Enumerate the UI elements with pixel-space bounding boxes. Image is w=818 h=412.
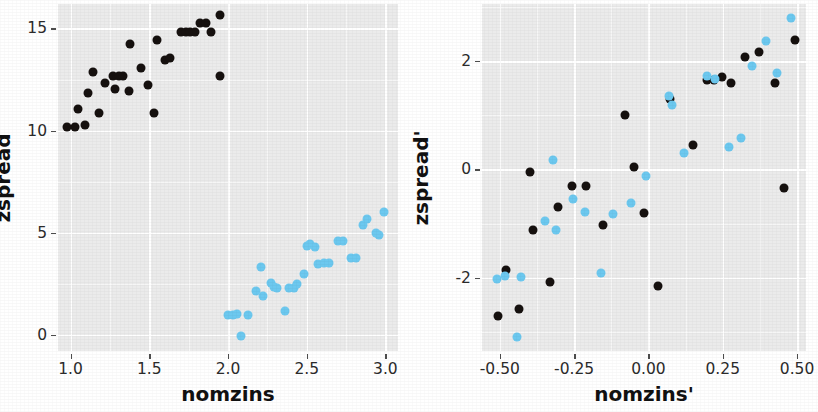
- x-axis-tick-mark: [797, 354, 798, 359]
- x-axis-tick-mark: [574, 354, 575, 359]
- gridline-major-vertical: [385, 4, 387, 351]
- data-point-black-group: [216, 72, 225, 81]
- data-point-black-group: [101, 78, 110, 87]
- gridline-minor-horizontal: [482, 115, 806, 116]
- data-point-blue-group: [596, 269, 605, 278]
- gridline-major-horizontal: [58, 131, 398, 133]
- x-axis-tick-label: 0.50: [780, 360, 815, 378]
- data-point-blue-group: [310, 242, 319, 251]
- gridline-major-horizontal: [482, 61, 806, 63]
- gridline-minor-vertical: [346, 4, 347, 351]
- gridline-major-vertical: [228, 4, 230, 351]
- data-point-black-group: [582, 181, 591, 190]
- data-point-blue-group: [351, 254, 360, 263]
- x-axis-tick-label: 0.25: [706, 360, 741, 378]
- data-point-black-group: [118, 72, 127, 81]
- data-point-black-group: [528, 226, 537, 235]
- y-axis-tick-mark: [51, 233, 56, 234]
- data-point-black-group: [640, 208, 649, 217]
- y-axis-tick-mark: [475, 61, 480, 62]
- y-axis-tick-mark: [51, 131, 56, 132]
- y-axis-tick-mark: [475, 169, 480, 170]
- data-point-blue-group: [747, 62, 756, 71]
- data-point-black-group: [621, 111, 630, 120]
- data-point-black-group: [567, 181, 576, 190]
- gridline-minor-vertical: [686, 4, 687, 351]
- x-axis-tick-label: 1.0: [58, 360, 83, 378]
- data-point-black-group: [150, 109, 159, 118]
- data-point-black-group: [126, 39, 135, 48]
- x-axis-tick-label: 2.0: [216, 360, 241, 378]
- gridline-major-vertical: [797, 4, 799, 351]
- plot-area-right: [482, 4, 806, 351]
- data-point-black-group: [83, 88, 92, 97]
- data-point-blue-group: [362, 215, 371, 224]
- data-point-blue-group: [513, 333, 522, 342]
- plot-area-left: [58, 4, 398, 351]
- x-axis-tick-mark: [149, 354, 150, 359]
- data-point-black-group: [770, 78, 779, 87]
- gridline-major-vertical: [71, 4, 73, 351]
- gridline-minor-horizontal: [482, 224, 806, 225]
- y-axis-tick-label: 0: [425, 160, 471, 178]
- data-point-blue-group: [258, 291, 267, 300]
- gridline-major-vertical: [574, 4, 576, 351]
- data-point-blue-group: [551, 226, 560, 235]
- x-axis-tick-mark: [500, 354, 501, 359]
- data-point-black-group: [124, 86, 133, 95]
- data-point-blue-group: [626, 198, 635, 207]
- data-point-blue-group: [772, 68, 781, 77]
- data-point-black-group: [74, 105, 83, 114]
- data-point-blue-group: [324, 259, 333, 268]
- y-axis-tick-label: 15: [7, 19, 47, 37]
- data-point-blue-group: [541, 216, 550, 225]
- data-point-blue-group: [517, 272, 526, 281]
- gridline-minor-vertical: [267, 4, 268, 351]
- data-point-black-group: [190, 27, 199, 36]
- data-point-blue-group: [580, 207, 589, 216]
- data-point-blue-group: [244, 311, 253, 320]
- data-point-black-group: [598, 220, 607, 229]
- data-point-blue-group: [338, 236, 347, 245]
- gridline-major-vertical: [307, 4, 309, 351]
- data-point-blue-group: [668, 101, 677, 110]
- y-axis-tick-label: -2: [425, 269, 471, 287]
- gridline-minor-vertical: [110, 4, 111, 351]
- data-point-black-group: [514, 305, 523, 314]
- gridline-major-horizontal: [482, 278, 806, 280]
- x-axis-tick-mark: [228, 354, 229, 359]
- data-point-blue-group: [375, 230, 384, 239]
- data-point-black-group: [216, 11, 225, 20]
- gridline-major-horizontal: [58, 28, 398, 30]
- x-axis-tick-mark: [648, 354, 649, 359]
- x-axis-tick-label: -0.50: [480, 360, 520, 378]
- data-point-blue-group: [761, 37, 770, 46]
- y-axis-tick-label: 10: [7, 122, 47, 140]
- y-axis-tick-mark: [51, 335, 56, 336]
- gridline-minor-vertical: [189, 4, 190, 351]
- data-point-blue-group: [379, 208, 388, 217]
- data-point-blue-group: [280, 307, 289, 316]
- panel-right-nomzins-prime-zspread-prime: zspread' nomzins' -0.50-0.250.000.250.50…: [410, 0, 818, 412]
- gridline-minor-vertical: [611, 4, 612, 351]
- data-point-blue-group: [725, 142, 734, 151]
- data-point-blue-group: [299, 270, 308, 279]
- gridline-major-vertical: [500, 4, 502, 351]
- x-axis-tick-mark: [71, 354, 72, 359]
- data-point-black-group: [71, 123, 80, 132]
- data-point-blue-group: [548, 155, 557, 164]
- data-point-black-group: [137, 64, 146, 73]
- data-point-blue-group: [257, 263, 266, 272]
- data-point-black-group: [727, 78, 736, 87]
- data-point-black-group: [741, 52, 750, 61]
- x-axis-tick-mark: [385, 354, 386, 359]
- data-point-black-group: [755, 48, 764, 57]
- y-axis-title-left: zspread: [0, 133, 15, 222]
- gridline-minor-horizontal: [482, 7, 806, 8]
- data-point-black-group: [779, 184, 788, 193]
- data-point-blue-group: [293, 279, 302, 288]
- data-point-black-group: [653, 282, 662, 291]
- gridline-major-vertical: [149, 4, 151, 351]
- data-point-blue-group: [711, 75, 720, 84]
- data-point-black-group: [206, 27, 215, 36]
